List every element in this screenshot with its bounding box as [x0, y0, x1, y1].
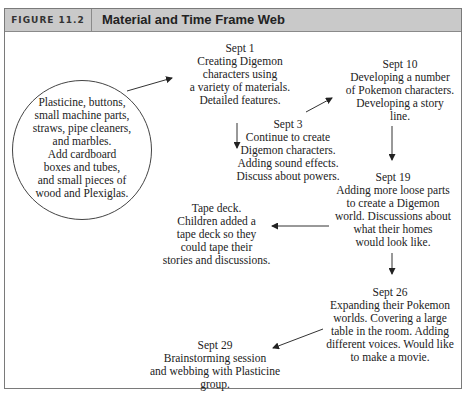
- arrow-sept26-to-sept29: [273, 329, 323, 348]
- arrow-materials-to-sept1: [127, 78, 172, 91]
- arrow-sept3-to-sept10: [306, 98, 332, 112]
- connector-arrows: [0, 0, 467, 395]
